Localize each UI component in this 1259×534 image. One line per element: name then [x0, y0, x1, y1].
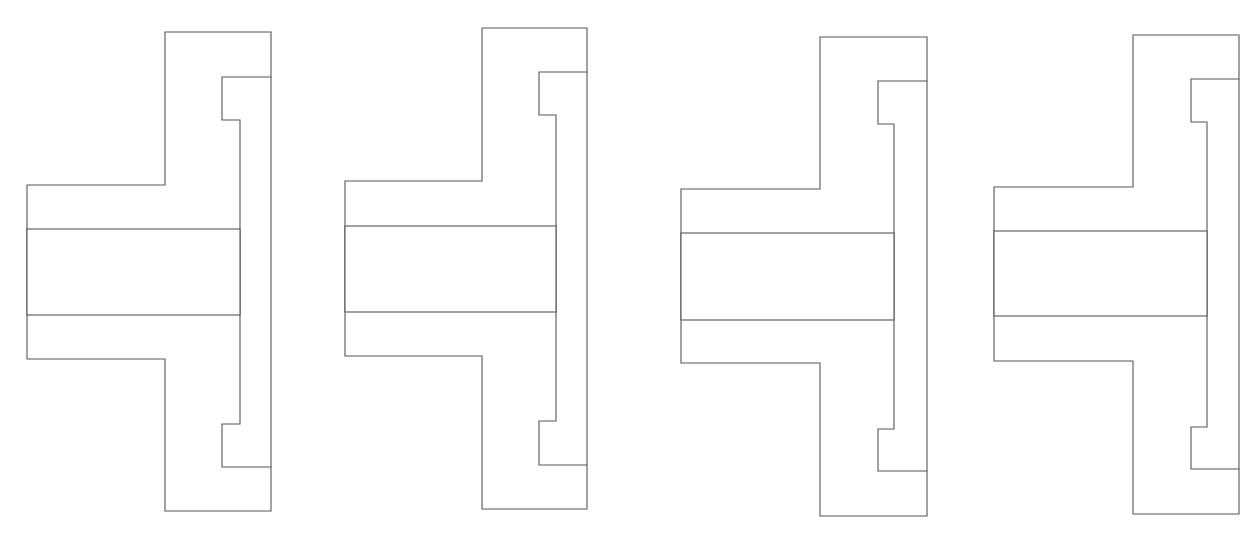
figure-3-grouped-hatch	[681, 37, 927, 516]
figure-3-bore	[681, 233, 894, 320]
figure-1-bore	[27, 229, 240, 315]
figure-4-bore	[994, 231, 1207, 316]
flange-cross-sections	[0, 0, 1259, 534]
figure-4-cross-hatch	[994, 35, 1239, 514]
figure-1-diagonal-hatch	[27, 32, 271, 511]
figure-2-bore	[345, 226, 556, 312]
figure-2-dashed-hatch	[345, 28, 587, 509]
